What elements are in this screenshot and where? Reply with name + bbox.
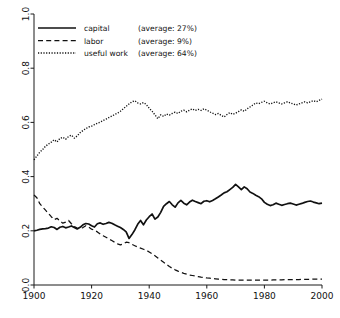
legend-average-useful-work: (average: 64%) bbox=[138, 49, 197, 58]
y-tick-label: 1.0 bbox=[21, 7, 31, 22]
y-tick-label: 0.4 bbox=[21, 169, 31, 184]
chart-container: 190019201940196019802000 0.00.20.40.60.8… bbox=[0, 0, 340, 318]
x-tick-label: 1940 bbox=[138, 291, 161, 301]
x-tick-label: 1960 bbox=[195, 291, 218, 301]
legend-label-useful-work: useful work bbox=[84, 49, 128, 58]
x-tick-label: 2000 bbox=[311, 291, 334, 301]
x-tick-label: 1920 bbox=[80, 291, 103, 301]
y-tick-label: 0.0 bbox=[21, 278, 31, 293]
legend-average-labor: (average: 9%) bbox=[138, 37, 192, 46]
legend-label-capital: capital bbox=[84, 24, 110, 33]
legend-average-capital: (average: 27%) bbox=[138, 24, 197, 33]
chart-background bbox=[0, 0, 340, 318]
x-tick-label: 1980 bbox=[253, 291, 276, 301]
y-tick-label: 0.8 bbox=[21, 61, 31, 76]
y-tick-label: 0.6 bbox=[21, 115, 31, 130]
line-chart: 190019201940196019802000 0.00.20.40.60.8… bbox=[0, 0, 340, 318]
legend-label-labor: labor bbox=[84, 37, 104, 46]
y-tick-label: 0.2 bbox=[21, 224, 31, 238]
